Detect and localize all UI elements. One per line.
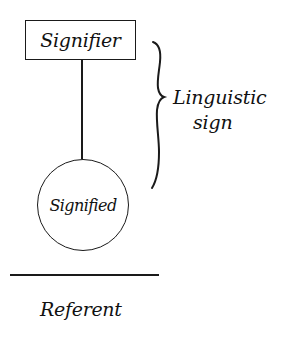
linguistic-sign-label-line1: Linguistic [173, 88, 267, 107]
signifier-box: Signifier [25, 20, 136, 60]
signified-label: Signified [49, 196, 116, 215]
linguistic-sign-label-line2: sign [193, 113, 232, 132]
referent-label: Referent [40, 300, 122, 319]
signified-circle: Signified [37, 159, 129, 251]
curly-brace-icon [145, 38, 175, 194]
signifier-signified-connector [81, 60, 83, 159]
referent-divider-line [10, 274, 159, 276]
diagram-canvas: Signifier Signified Referent Linguistic … [0, 0, 294, 349]
signifier-label: Signifier [40, 29, 120, 51]
